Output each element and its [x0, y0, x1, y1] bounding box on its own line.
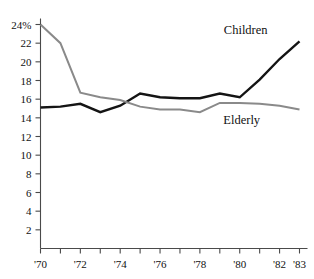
y-tick-label: 12 [21, 131, 32, 143]
elderly-series-label: Elderly [223, 113, 261, 127]
y-tick-label: 8 [26, 168, 32, 180]
chart-background [0, 0, 314, 279]
chart-canvas: 24681012141618202224% '70'72'74'76'78'80… [0, 0, 314, 279]
y-tick-label: 2 [26, 224, 32, 236]
x-tick-label: '82 [273, 258, 286, 270]
x-tick-label: '70 [34, 258, 47, 270]
y-tick-label: 22 [21, 37, 32, 49]
y-tick-label: 6 [26, 187, 32, 199]
y-tick-label: 20 [21, 56, 33, 68]
x-tick-label: '80 [233, 258, 246, 270]
x-tick-label: '74 [114, 258, 127, 270]
x-tick-label: '72 [74, 258, 87, 270]
x-tick-label: '83 [293, 258, 306, 270]
children-series-label: Children [224, 23, 268, 37]
y-tick-label: 10 [21, 149, 33, 161]
x-tick-label: '78 [193, 258, 206, 270]
y-tick-label: 24% [11, 19, 31, 31]
x-tick-label: '76 [154, 258, 167, 270]
line-chart: 24681012141618202224% '70'72'74'76'78'80… [0, 0, 314, 279]
y-tick-label: 16 [21, 93, 33, 105]
y-tick-label: 18 [21, 75, 33, 87]
y-tick-label: 14 [21, 112, 33, 124]
y-tick-label: 4 [26, 205, 32, 217]
